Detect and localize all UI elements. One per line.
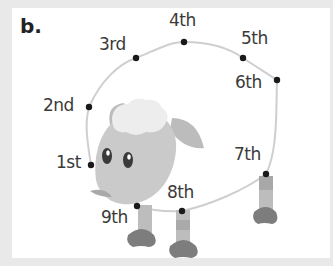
sheep-icon — [90, 99, 277, 258]
figure-frame: b. 1st 2nd 3rd 4th 5th 6th 7th 8th 9th — [0, 0, 333, 266]
point-dot-9th — [134, 203, 140, 209]
point-dot-5th — [240, 55, 246, 61]
point-label-9th: 9th — [101, 207, 128, 227]
point-label-3rd: 3rd — [99, 34, 126, 54]
point-label-2nd: 2nd — [43, 95, 74, 115]
point-dot-7th — [263, 171, 269, 177]
point-dot-2nd — [86, 104, 92, 110]
point-dot-8th — [179, 208, 185, 214]
point-dot-6th — [274, 77, 280, 83]
point-label-4th: 4th — [169, 10, 196, 30]
point-label-7th: 7th — [234, 144, 261, 164]
point-dot-1st — [88, 162, 94, 168]
point-label-8th: 8th — [167, 182, 194, 202]
point-label-6th: 6th — [235, 72, 262, 92]
point-label-1st: 1st — [56, 152, 81, 172]
point-label-5th: 5th — [241, 28, 268, 48]
panel-label: b. — [20, 14, 42, 38]
point-dot-3rd — [133, 55, 139, 61]
point-dot-4th — [181, 39, 187, 45]
sheep-outline-diagram — [0, 0, 333, 266]
